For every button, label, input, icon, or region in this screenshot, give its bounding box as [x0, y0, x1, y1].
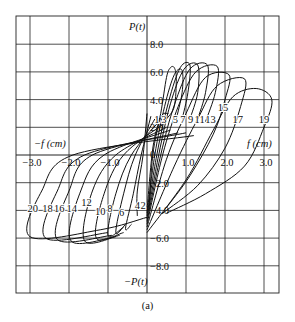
curve-label-2: 2	[140, 200, 145, 211]
curve-label-19: 19	[259, 114, 270, 125]
curve-label-12: 12	[81, 197, 92, 208]
y-tick-label: 6.0	[150, 67, 163, 78]
curve-label-13: 13	[205, 114, 216, 125]
x-axis-label-positive: f (cm)	[247, 138, 272, 150]
curve-label-14: 14	[66, 203, 77, 214]
y-axis-label-positive: P(t)	[128, 21, 146, 33]
y-tick-label: 0	[150, 149, 155, 160]
x-tick-label: −1.0	[100, 157, 119, 168]
curve-label-16: 16	[54, 203, 65, 214]
figure-caption: (a)	[0, 300, 295, 311]
curve-label-9: 9	[188, 114, 193, 125]
curve-label-4: 4	[135, 200, 141, 211]
y-tick-label: 8.0	[150, 39, 163, 50]
y-tick-label: 4.0	[150, 95, 163, 106]
y-tick-label: −2.0	[150, 178, 169, 189]
y-axis-label-negative: −P(t)	[124, 276, 148, 288]
curve-label-18: 18	[42, 203, 53, 214]
y-tick-label: −4.0	[150, 205, 169, 216]
grid	[16, 16, 279, 293]
curve-label-20: 20	[27, 203, 38, 214]
curve-label-8: 8	[107, 203, 112, 214]
x-tick-label: 1.0	[181, 157, 194, 168]
curve-label-10: 10	[95, 206, 106, 217]
x-tick-label: −2.0	[61, 157, 80, 168]
curve-label-17: 17	[233, 114, 244, 125]
hysteresis-chart: −3.0−2.0−1.01.02.03.08.06.04.02.00−2.0−4…	[0, 0, 295, 322]
x-tick-label: −3.0	[22, 157, 41, 168]
x-tick-label: 2.0	[220, 157, 233, 168]
curve-label-1: 1	[154, 114, 159, 125]
y-tick-label: −6.0	[150, 233, 169, 244]
curve-label-6: 6	[119, 207, 124, 218]
curve-label-3: 3	[161, 114, 166, 125]
curve-label-11: 11	[195, 114, 205, 125]
x-axis-label-negative: −f (cm)	[34, 138, 66, 150]
x-tick-label: 3.0	[259, 157, 272, 168]
curve-label-5: 5	[173, 114, 178, 125]
curve-label-7: 7	[180, 114, 185, 125]
y-tick-label: −8.0	[150, 261, 169, 272]
curve-label-15: 15	[218, 102, 229, 113]
